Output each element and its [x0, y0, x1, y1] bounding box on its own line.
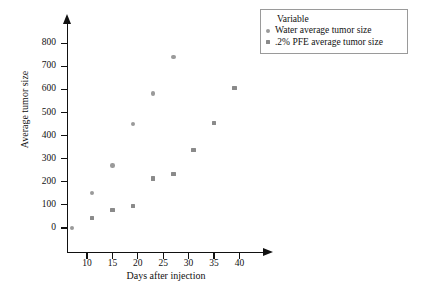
circle-marker-icon — [266, 29, 270, 33]
y-axis-tick — [61, 112, 67, 113]
legend-title: Variable — [266, 14, 402, 25]
x-axis-tick-label: 40 — [224, 259, 254, 269]
y-axis-tick — [61, 158, 67, 159]
data-point — [90, 216, 94, 220]
y-axis-tick — [61, 43, 67, 44]
data-point — [171, 55, 175, 59]
data-point — [212, 121, 216, 125]
data-point — [151, 91, 155, 95]
y-axis-tick — [61, 181, 67, 182]
y-axis-arrow-icon — [63, 14, 71, 24]
legend: Variable Water average tumor size.2% PFE… — [260, 9, 408, 54]
y-axis-tick-label: 100 — [16, 200, 56, 210]
legend-entries: Water average tumor size.2% PFE average … — [266, 25, 402, 48]
data-point — [110, 208, 114, 212]
data-point — [171, 172, 175, 176]
data-point — [110, 163, 114, 167]
x-axis-arrow-icon — [263, 248, 273, 256]
scatter-chart: 8007006005004003002001000 10152025303540… — [0, 0, 427, 286]
data-point — [232, 86, 236, 90]
x-axis-line — [67, 252, 265, 253]
legend-entry-label: Water average tumor size — [275, 25, 372, 37]
x-axis-title: Days after injection — [67, 270, 265, 281]
square-marker-icon — [266, 40, 270, 44]
y-axis-line — [67, 22, 68, 253]
y-axis-tick-label: 0 — [16, 223, 56, 233]
y-axis-tick — [61, 66, 67, 67]
y-axis-tick — [61, 227, 67, 228]
y-axis-tick — [61, 89, 67, 90]
legend-entry[interactable]: Water average tumor size — [266, 25, 402, 37]
y-axis-title: Average tumor size — [19, 40, 30, 180]
data-point — [90, 191, 94, 195]
data-point — [191, 148, 195, 152]
data-point — [131, 122, 135, 126]
data-point — [131, 204, 135, 208]
legend-entry-label: .2% PFE average tumor size — [275, 37, 383, 49]
data-point — [70, 226, 74, 230]
y-axis-tick — [61, 135, 67, 136]
data-point — [151, 176, 155, 180]
y-axis-tick — [61, 204, 67, 205]
legend-entry[interactable]: .2% PFE average tumor size — [266, 37, 402, 49]
